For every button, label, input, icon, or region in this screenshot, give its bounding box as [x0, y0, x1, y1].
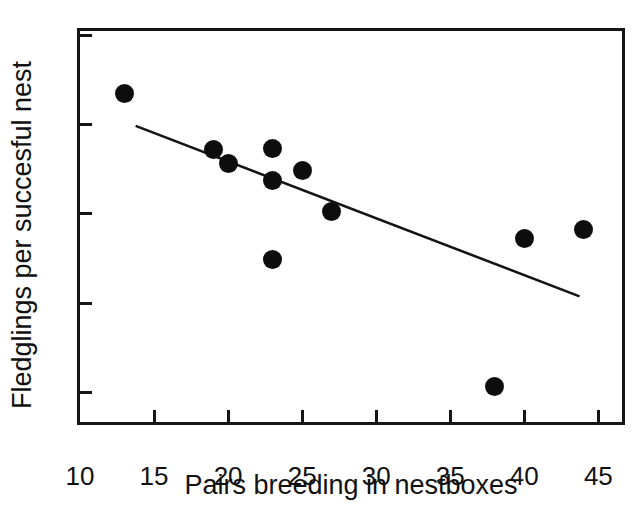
data-point — [574, 220, 593, 239]
data-point — [263, 139, 282, 158]
data-point — [322, 202, 341, 221]
data-point — [204, 140, 223, 159]
data-point — [115, 84, 134, 103]
data-point — [515, 229, 534, 248]
data-point — [485, 377, 504, 396]
data-point — [219, 154, 238, 173]
data-points — [80, 31, 622, 422]
data-point — [263, 250, 282, 269]
x-axis-title: Pairs breeding in nestboxes — [77, 470, 625, 501]
data-point — [263, 171, 282, 190]
data-point — [293, 161, 312, 180]
scatter-plot-figure: Fledglings per succesful nest 34567 1015… — [0, 0, 639, 520]
plot-area: 34567 1015202530354045 — [77, 28, 625, 425]
y-axis-title: Fledglings per succesful nest — [0, 0, 44, 470]
